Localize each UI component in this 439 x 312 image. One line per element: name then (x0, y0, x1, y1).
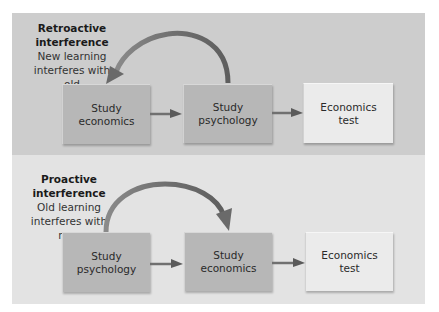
arrow-right-icon (272, 108, 303, 117)
arrow-right-icon (150, 259, 183, 268)
arrows-layer (0, 0, 439, 312)
curved-arrow-forward-icon (106, 184, 232, 232)
arrow-right-icon (272, 258, 305, 267)
curved-arrow-backward-icon (106, 33, 228, 84)
arrow-right-icon (150, 109, 182, 118)
